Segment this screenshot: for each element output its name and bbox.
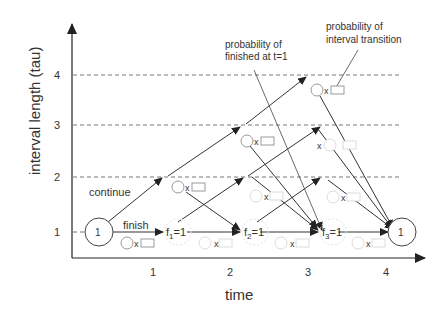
svg-text:1: 1 (54, 226, 60, 238)
svg-text:x: x (264, 192, 269, 202)
svg-text:x: x (254, 137, 259, 147)
svg-text:x: x (366, 239, 371, 249)
svg-text:3: 3 (54, 119, 60, 131)
svg-text:f1=1: f1=1 (166, 226, 186, 241)
end-node: 1 (388, 218, 416, 246)
continue-label: continue (89, 186, 131, 198)
svg-text:1: 1 (398, 227, 404, 238)
dashed-level-lines (73, 75, 400, 232)
y-axis-label: interval length (tau) (26, 47, 43, 175)
svg-text:1: 1 (150, 266, 156, 278)
multiplier-t1-level2: x (172, 181, 205, 193)
markov-interval-diagram: 1 2 3 4 1 2 3 4 interval length (tau) ti… (0, 0, 446, 310)
svg-text:x: x (317, 141, 322, 151)
multiplier-start-finish: x (121, 237, 154, 249)
finish-label: finish (123, 219, 149, 231)
multiplier-t3-level4: x (311, 84, 344, 96)
prob-finished-label-1: probability of (225, 39, 282, 50)
prob-finished-label-2: finished at t=1 (225, 51, 288, 62)
start-node: 1 (85, 218, 113, 246)
svg-text:x: x (324, 86, 329, 96)
svg-text:x: x (290, 239, 295, 249)
x-axis-label: time (225, 286, 253, 303)
svg-text:2: 2 (227, 266, 233, 278)
svg-text:x: x (185, 183, 190, 193)
transition-arrows (108, 77, 393, 232)
svg-text:x: x (214, 239, 219, 249)
svg-text:4: 4 (383, 266, 389, 278)
svg-text:1: 1 (95, 227, 101, 238)
svg-text:3: 3 (305, 266, 311, 278)
svg-text:f2=1: f2=1 (244, 226, 264, 241)
multiplier-t2-level3: x (241, 135, 274, 147)
prob-transition-label-2: interval transition (326, 34, 402, 45)
svg-text:f3=1: f3=1 (322, 226, 342, 241)
svg-text:x: x (134, 239, 139, 249)
svg-text:x: x (341, 193, 346, 203)
svg-text:2: 2 (54, 171, 60, 183)
svg-text:4: 4 (54, 69, 60, 81)
y-tick-labels: 1 2 3 4 (54, 69, 60, 238)
prob-transition-label-1: probability of (326, 21, 383, 32)
x-tick-labels: 1 2 3 4 (150, 266, 389, 278)
